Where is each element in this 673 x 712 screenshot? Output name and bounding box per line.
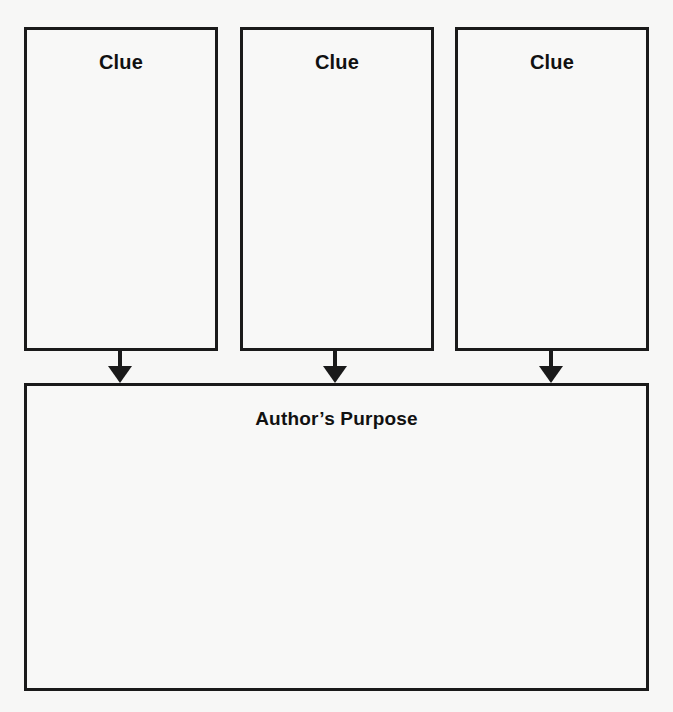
clue-label: Clue (243, 51, 431, 74)
authors-purpose-label: Author’s Purpose (27, 408, 646, 430)
arrow-down-icon (538, 350, 564, 384)
clue-box-2: Clue (240, 27, 434, 351)
clue-label: Clue (458, 51, 646, 74)
arrow-down-icon (107, 350, 133, 384)
clue-label: Clue (27, 51, 215, 74)
clue-box-1: Clue (24, 27, 218, 351)
clue-box-3: Clue (455, 27, 649, 351)
arrow-down-icon (322, 350, 348, 384)
authors-purpose-box: Author’s Purpose (24, 383, 649, 691)
